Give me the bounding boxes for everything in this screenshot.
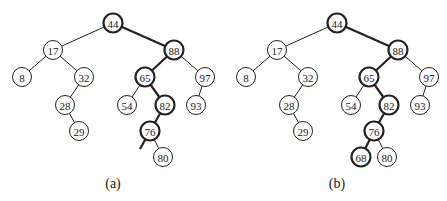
tree-node-29: 29 [70,122,89,141]
node-key: 97 [424,72,436,84]
tree-node-80: 80 [378,148,397,167]
tree-node-76: 76 [141,122,160,141]
caption-b: (b) [329,176,346,192]
tree-node-82: 82 [156,96,175,115]
tree-node-44: 44 [328,14,347,33]
node-key: 44 [108,18,120,30]
tree-node-97: 97 [196,68,215,87]
tree-node-17: 17 [268,41,287,60]
node-key: 8 [243,72,249,84]
node-key: 17 [272,45,284,57]
tree-node-54: 54 [342,96,361,115]
node-key: 28 [284,100,296,112]
tree-node-8: 8 [237,68,256,87]
node-key: 88 [393,45,405,57]
node-key: 80 [382,152,394,164]
tree-node-65: 65 [136,68,155,87]
tree-node-29: 29 [294,122,313,141]
tree-node-32: 32 [299,68,318,87]
tree-node-80: 80 [154,148,173,167]
node-key: 82 [160,100,171,112]
node-key: 54 [346,100,358,112]
node-key: 82 [384,100,395,112]
tree-node-68: 68 [352,148,371,167]
binary-search-tree-figure: 441788832659728548293297680(a) 441788832… [0,0,447,201]
node-key: 76 [145,126,157,138]
node-key: 32 [303,72,314,84]
node-key: 93 [191,100,203,112]
tree-node-32: 32 [75,68,94,87]
tree-node-65: 65 [360,68,379,87]
node-key: 93 [415,100,427,112]
tree-node-88: 88 [389,41,408,60]
caption-a: (a) [105,176,121,192]
tree-node-54: 54 [118,96,137,115]
node-key: 68 [356,152,368,164]
tree-node-97: 97 [420,68,439,87]
node-key: 88 [169,45,181,57]
tree-node-28: 28 [56,96,75,115]
tree-a: 441788832659728548293297680(a) [13,14,215,192]
tree-node-88: 88 [165,41,184,60]
node-key: 65 [364,72,376,84]
node-key: 44 [332,18,344,30]
node-key: 28 [60,100,72,112]
tree-node-93: 93 [187,96,206,115]
node-key: 97 [200,72,212,84]
node-key: 8 [19,72,25,84]
node-key: 32 [79,72,90,84]
tree-node-93: 93 [411,96,430,115]
tree-node-28: 28 [280,96,299,115]
node-key: 80 [158,152,170,164]
node-key: 76 [369,126,381,138]
node-key: 29 [298,126,310,138]
tree-node-82: 82 [380,96,399,115]
tree-node-17: 17 [44,41,63,60]
tree-node-44: 44 [104,14,123,33]
node-key: 29 [74,126,86,138]
tree-node-76: 76 [365,122,384,141]
tree-b: 44178883265972854829329766880(b) [237,14,439,192]
tree-node-8: 8 [13,68,32,87]
node-key: 65 [140,72,152,84]
node-key: 54 [122,100,134,112]
node-key: 17 [48,45,60,57]
